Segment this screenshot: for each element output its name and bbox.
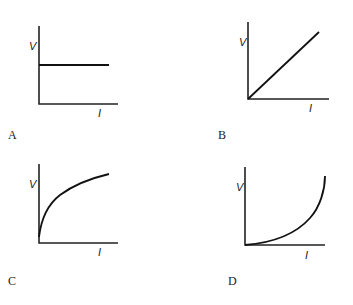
- vi-graphs-figure: V I A V I B V I C V I D: [0, 0, 353, 305]
- panel-c-x-label: I: [98, 246, 101, 258]
- panel-a-x-label: I: [98, 107, 101, 119]
- panel-d: V I D: [228, 167, 325, 288]
- panel-a-label: A: [8, 128, 17, 142]
- panel-b-y-label: V: [239, 36, 248, 48]
- panel-b-label: B: [218, 128, 226, 142]
- panel-c: V I C: [8, 164, 118, 288]
- panel-d-curve: [245, 176, 325, 245]
- panel-b-x-label: I: [309, 102, 312, 114]
- panel-b: V I B: [218, 22, 329, 142]
- panel-a: V I A: [8, 26, 118, 142]
- panel-b-curve: [248, 32, 319, 99]
- panel-c-label: C: [8, 274, 16, 288]
- panel-d-x-label: I: [305, 249, 308, 261]
- panel-c-y-label: V: [29, 178, 38, 190]
- panel-d-y-label: V: [236, 181, 245, 193]
- panel-c-curve: [39, 174, 109, 237]
- panel-a-y-label: V: [29, 40, 38, 52]
- panel-d-axes: [245, 167, 325, 245]
- panel-d-label: D: [228, 274, 237, 288]
